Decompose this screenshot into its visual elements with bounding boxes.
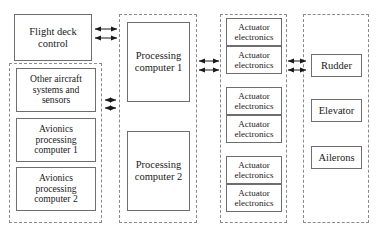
ailerons-box: Ailerons — [311, 146, 362, 169]
flight-deck-control-label: Flight deck control — [29, 26, 77, 50]
avionics-processing-computer-2-label: Avionics processing computer 2 — [34, 173, 77, 205]
actuator-electronics-box-4: Actuator electronics — [226, 115, 282, 143]
actuator-electronics-box-1: Actuator electronics — [226, 18, 282, 46]
actuator-electronics-label-1: Actuator electronics — [235, 22, 274, 42]
processing-computer-1-box: Processing computer 1 — [127, 22, 190, 102]
actuator-electronics-label-4: Actuator electronics — [235, 119, 274, 139]
elevator-label: Elevator — [319, 105, 355, 117]
connector-actuator-to-control-surfaces — [284, 56, 310, 80]
processing-computer-1-label: Processing computer 1 — [135, 50, 183, 74]
actuator-electronics-box-3: Actuator electronics — [226, 87, 282, 115]
actuator-electronics-label-5: Actuator electronics — [235, 160, 274, 180]
actuator-electronics-box-2: Actuator electronics — [226, 46, 282, 74]
flight-control-architecture-diagram: Flight deck control Other aircraft syste… — [0, 0, 378, 236]
connector-avionics-to-processing — [100, 95, 122, 117]
other-aircraft-systems-label: Other aircraft systems and sensors — [30, 74, 82, 106]
actuator-electronics-box-6: Actuator electronics — [226, 184, 282, 212]
connector-processing-to-actuator — [194, 56, 224, 80]
avionics-processing-computer-2-box: Avionics processing computer 2 — [16, 167, 96, 211]
connector-flight-deck-to-processing — [90, 24, 122, 48]
rudder-box: Rudder — [311, 54, 362, 77]
actuator-electronics-label-3: Actuator electronics — [235, 91, 274, 111]
avionics-processing-computer-1-box: Avionics processing computer 1 — [16, 118, 96, 162]
avionics-processing-computer-1-label: Avionics processing computer 1 — [34, 124, 77, 156]
processing-computer-2-label: Processing computer 2 — [135, 159, 183, 183]
rudder-label: Rudder — [321, 60, 352, 72]
processing-computer-2-box: Processing computer 2 — [127, 131, 190, 211]
elevator-box: Elevator — [311, 99, 362, 122]
actuator-electronics-label-2: Actuator electronics — [235, 50, 274, 70]
flight-deck-control-box: Flight deck control — [14, 14, 92, 61]
ailerons-label: Ailerons — [318, 152, 354, 164]
actuator-electronics-box-5: Actuator electronics — [226, 156, 282, 184]
other-aircraft-systems-box: Other aircraft systems and sensors — [16, 68, 96, 112]
actuator-electronics-label-6: Actuator electronics — [235, 188, 274, 208]
